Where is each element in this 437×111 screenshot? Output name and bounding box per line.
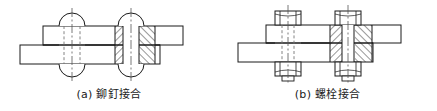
engineering-figure: (a) 鉚釘接合 <box>0 0 437 111</box>
hatch-lower-right-of-bolt <box>355 43 372 62</box>
caption-rivet-joint: (a) 鉚釘接合 <box>0 85 218 101</box>
caption-bolt-joint: (b) 螺栓接合 <box>218 85 437 101</box>
rivet-joint-drawing <box>0 0 218 85</box>
bolt-joint-drawing <box>218 0 437 85</box>
hatch-lower-right-of-rivet <box>139 45 155 64</box>
panel-bolt-joint: (b) 螺栓接合 <box>218 0 437 111</box>
hatch-upper-right-of-rivet <box>139 26 155 45</box>
hatch-upper-right-of-bolt <box>355 25 372 43</box>
panel-rivet-joint: (a) 鉚釘接合 <box>0 0 218 111</box>
